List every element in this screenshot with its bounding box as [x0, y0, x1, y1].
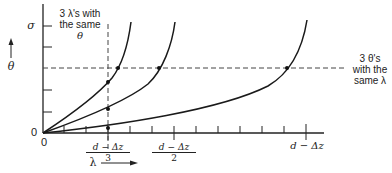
y-ticks — [43, 26, 52, 112]
vertical-note: 3 λ's with the same θ — [54, 8, 106, 41]
intersection-dot — [116, 66, 120, 70]
x-tick-label-half-numerator: d − Δz — [152, 142, 196, 153]
theta-arrow-icon — [9, 38, 14, 45]
y-axis-sigma-label: σ — [25, 20, 37, 31]
intersection-dot — [106, 80, 110, 84]
horizontal-note-line: with the — [349, 64, 391, 75]
x-tick-label-half: d − Δz 2 — [152, 142, 196, 163]
x-tick-label-third: d − Δz 3 — [86, 142, 130, 163]
vertical-note-line: the same — [54, 19, 106, 30]
intersection-dot — [157, 66, 161, 70]
horizontal-note: 3 θ's with the same λ — [349, 53, 391, 86]
intersection-dot — [285, 66, 289, 70]
y-origin-label: 0 — [29, 127, 39, 138]
intersection-points — [106, 66, 289, 130]
intersection-dot — [106, 126, 110, 130]
lambda-arrow-icon — [130, 161, 138, 166]
x-tick-label-third-numerator: d − Δz — [86, 142, 130, 153]
vertical-note-line: θ — [54, 30, 106, 41]
y-axis-label: θ — [3, 61, 19, 72]
x-tick-label-third-denominator: 3 — [86, 153, 130, 163]
x-origin-label: 0 — [39, 137, 49, 148]
intersection-dot — [106, 107, 110, 111]
vertical-note-line: 3 λ's with — [54, 8, 106, 19]
x-tick-label-full: d − Δz — [282, 141, 332, 151]
horizontal-note-line: same λ — [349, 75, 391, 86]
horizontal-note-line: 3 θ's — [349, 53, 391, 64]
x-tick-label-half-denominator: 2 — [152, 153, 196, 163]
